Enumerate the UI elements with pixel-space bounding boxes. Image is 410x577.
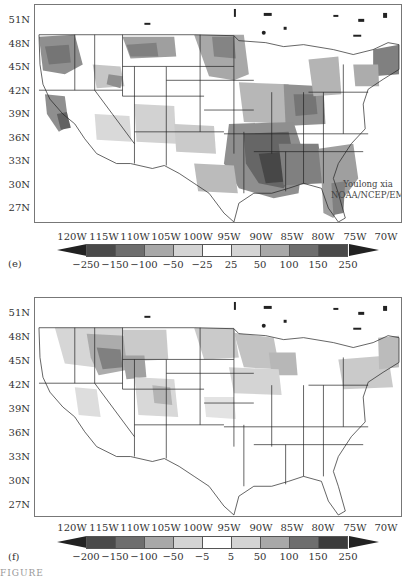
canada-coastline-fragments-f xyxy=(144,302,387,330)
lon-label: 100W xyxy=(183,522,212,533)
colorbar-label: 50 xyxy=(254,551,267,562)
lon-label: 90W xyxy=(249,231,272,242)
colorbar-segment xyxy=(260,536,289,549)
colorbar-segment xyxy=(260,244,289,257)
panel-e: Youlong xia NOAA/NCEP/EMC 51N 48N 45N 42… xyxy=(0,0,410,290)
lon-label: 80W xyxy=(311,231,334,242)
lon-label: 115W xyxy=(89,522,118,533)
lat-label: 27N xyxy=(4,500,30,510)
lon-label: 110W xyxy=(120,231,149,242)
lat-label: 42N xyxy=(4,380,30,390)
lon-label: 95W xyxy=(217,231,240,242)
colorbar-label: 100 xyxy=(279,259,298,270)
colorbar-label: −200 xyxy=(72,551,99,562)
colorbar-segment xyxy=(202,244,231,257)
credit-text-e: Youlong xia NOAA/NCEP/EMC xyxy=(331,179,402,201)
colorbar-label: 250 xyxy=(338,551,357,562)
colorbar-label: −150 xyxy=(101,259,128,270)
lat-label: 42N xyxy=(4,86,30,96)
credit-author: Youlong xia xyxy=(331,179,402,190)
colorbar-segment xyxy=(144,536,173,549)
colorbar-segment xyxy=(173,536,202,549)
colorbar-segment xyxy=(231,536,260,549)
lon-label: 80W xyxy=(311,522,334,533)
map-frame-f xyxy=(34,297,402,517)
lon-label: 95W xyxy=(217,522,240,533)
colorbar-segment xyxy=(86,244,115,257)
lon-label: 120W xyxy=(57,231,86,242)
colorbar-label: −250 xyxy=(72,259,99,270)
panel-f: 51N 48N 45N 42N 39N 36N 33N 30N 27N 120W… xyxy=(0,293,410,577)
colorbar-f xyxy=(57,536,379,549)
lon-label: 120W xyxy=(57,522,86,533)
colorbar-extend-right xyxy=(349,244,379,256)
lat-label: 51N xyxy=(4,15,30,25)
colorbar-segment xyxy=(289,244,318,257)
lat-label: 45N xyxy=(4,356,30,366)
lon-label: 90W xyxy=(249,522,272,533)
panel-label-f: (f) xyxy=(8,551,20,562)
lon-label: 85W xyxy=(280,231,303,242)
colorbar-label: −100 xyxy=(130,551,157,562)
colorbar-extend-left xyxy=(57,536,87,548)
colorbar-label: 25 xyxy=(225,259,238,270)
lat-label: 30N xyxy=(4,180,30,190)
lon-label: 75W xyxy=(343,522,366,533)
lat-label: 30N xyxy=(4,476,30,486)
colorbar-label: 50 xyxy=(254,259,267,270)
colorbar-extend-right xyxy=(349,536,379,548)
colorbar-label: 250 xyxy=(338,259,357,270)
lon-label: 75W xyxy=(343,231,366,242)
map-frame-e: Youlong xia NOAA/NCEP/EMC xyxy=(34,4,402,223)
lat-label: 33N xyxy=(4,452,30,462)
lon-label: 105W xyxy=(151,231,180,242)
colorbar-label: −100 xyxy=(130,259,157,270)
figure-caption-fragment: FIGURE xyxy=(0,568,44,577)
colorbar-label: −50 xyxy=(162,259,183,270)
canada-coastline-fragments-e xyxy=(144,9,387,37)
lat-label: 33N xyxy=(4,156,30,166)
colorbar-segment xyxy=(144,244,173,257)
map-canvas-f xyxy=(35,298,401,516)
lon-label: 85W xyxy=(280,522,303,533)
colorbar-segment xyxy=(115,244,144,257)
colorbar-label: 5 xyxy=(228,551,234,562)
colorbar-segment xyxy=(173,244,202,257)
colorbar-label: −25 xyxy=(191,259,212,270)
lon-label: 70W xyxy=(374,231,397,242)
lat-label: 36N xyxy=(4,428,30,438)
colorbar-label: −50 xyxy=(162,551,183,562)
colorbar-label: 150 xyxy=(308,551,327,562)
colorbar-segment xyxy=(289,536,318,549)
lon-label: 110W xyxy=(120,522,149,533)
credit-org: NOAA/NCEP/EMC xyxy=(331,190,402,201)
colorbar-segment xyxy=(318,244,348,257)
lon-label: 70W xyxy=(374,522,397,533)
lon-label: 115W xyxy=(89,231,118,242)
lat-label: 39N xyxy=(4,404,30,414)
colorbar-label: −5 xyxy=(195,551,210,562)
lon-label: 100W xyxy=(183,231,212,242)
colorbar-label: −150 xyxy=(101,551,128,562)
lat-label: 45N xyxy=(4,62,30,72)
colorbar-extend-left xyxy=(57,244,87,256)
lat-label: 36N xyxy=(4,133,30,143)
colorbar-segment xyxy=(318,536,348,549)
colorbar-segment xyxy=(86,536,115,549)
colorbar-e xyxy=(57,244,379,257)
lat-label: 48N xyxy=(4,39,30,49)
colorbar-label: 100 xyxy=(279,551,298,562)
colorbar-segment xyxy=(231,244,260,257)
colorbar-segment xyxy=(115,536,144,549)
lat-label: 51N xyxy=(4,308,30,318)
lat-label: 27N xyxy=(4,203,30,213)
colorbar-segment xyxy=(202,536,231,549)
lat-label: 39N xyxy=(4,109,30,119)
panel-label-e: (e) xyxy=(8,258,22,269)
lon-label: 105W xyxy=(151,522,180,533)
colorbar-label: 150 xyxy=(308,259,327,270)
lat-label: 48N xyxy=(4,332,30,342)
